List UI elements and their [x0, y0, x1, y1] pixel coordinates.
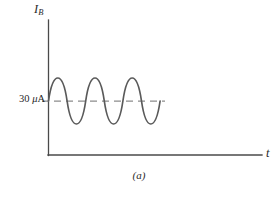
tick-value: 30 — [19, 93, 30, 104]
figure-container: IB t 30 μA (a) — [0, 0, 278, 197]
y-axis-label: IB — [34, 3, 43, 17]
x-axis-label: t — [266, 147, 269, 160]
y-axis-tick-label: 30 μA — [19, 94, 45, 105]
figure-caption: (a) — [0, 170, 278, 181]
y-axis-label-subscript: B — [38, 7, 43, 17]
ampere-unit: A — [37, 93, 45, 104]
